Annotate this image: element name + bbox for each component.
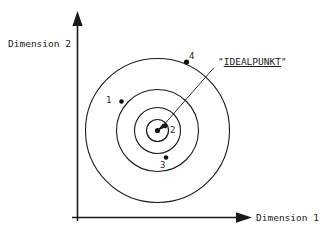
ideal-point-dot [155,128,160,133]
ideal-point-annotation: "IDEALPUNKT" [218,56,287,67]
point-dot-1 [119,99,124,104]
ideal-point-annotation-text: IDEALPUNKT [224,56,281,67]
point-label-2: 2 [170,125,175,135]
ideal-point-diagram: Dimension 2 Dimension 1 1 2 3 4 "IDEALPU… [0,0,331,235]
diagram-canvas [0,0,331,235]
x-axis-arrowhead [236,212,252,223]
point-label-3: 3 [160,160,165,170]
y-axis-label: Dimension 2 [8,38,71,49]
data-points [119,59,189,159]
quote-close: " [281,56,287,67]
axis-group [72,11,252,223]
leader-line [162,68,215,128]
x-axis-label: Dimension 1 [256,212,319,223]
point-label-4: 4 [189,51,194,61]
point-label-1: 1 [106,95,111,105]
y-axis-arrowhead [72,11,82,26]
ideal-point-leader [158,68,215,131]
point-dot-2 [163,124,168,129]
